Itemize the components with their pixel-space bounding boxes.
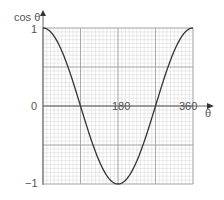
x-tick-360: 360 — [179, 101, 197, 112]
y-tick-minus-1: −1 — [25, 178, 38, 189]
y-tick-0: 0 — [31, 101, 37, 112]
y-axis-label: cos θ — [14, 12, 40, 23]
y-tick-1: 1 — [31, 24, 37, 35]
x-axis-label: θ — [205, 108, 211, 119]
x-tick-180: 180 — [112, 101, 130, 112]
